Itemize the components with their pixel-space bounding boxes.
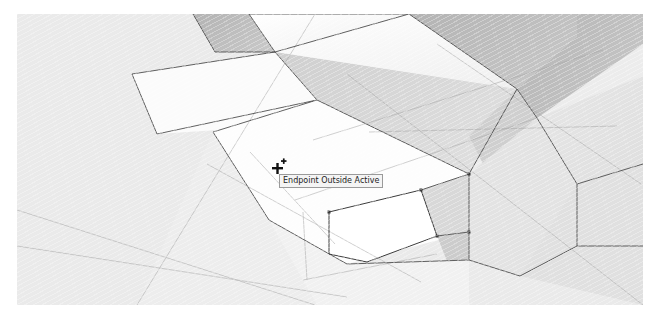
modeling-viewport[interactable]: Endpoint Outside Active bbox=[17, 14, 643, 305]
staircase-model bbox=[17, 14, 643, 305]
line-tool-crosshair-cursor bbox=[268, 157, 292, 181]
model-scene bbox=[17, 14, 643, 305]
inference-tooltip: Endpoint Outside Active bbox=[279, 174, 383, 188]
application-window: Endpoint Outside Active bbox=[0, 0, 655, 320]
